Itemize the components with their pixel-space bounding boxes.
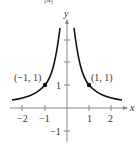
curves-layer: (−1, 1) (1, 1) [0,0,138,144]
point-right-marker [87,83,91,87]
point-right-label: (1, 1) [91,72,113,84]
point-left-label: (−1, 1) [14,72,41,84]
left-branch-curve [12,28,60,100]
point-left-marker [43,83,47,87]
right-branch-curve [74,28,122,100]
